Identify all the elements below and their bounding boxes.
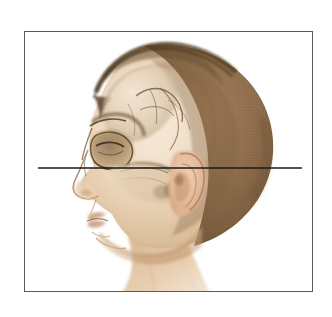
figure-root [0, 0, 332, 317]
figure-frame [24, 31, 313, 292]
figure-caption [0, 296, 332, 317]
